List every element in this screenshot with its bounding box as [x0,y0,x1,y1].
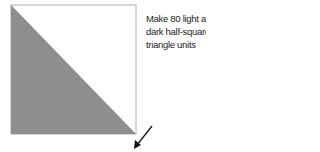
caption-line-3: triangle units [146,38,206,51]
caption-line-2: dark half-square [146,25,206,38]
instruction-caption: Make 80 light and dark half-square trian… [146,12,206,51]
caption-line-1: Make 80 light and [146,12,206,25]
arrow-icon [134,126,152,149]
